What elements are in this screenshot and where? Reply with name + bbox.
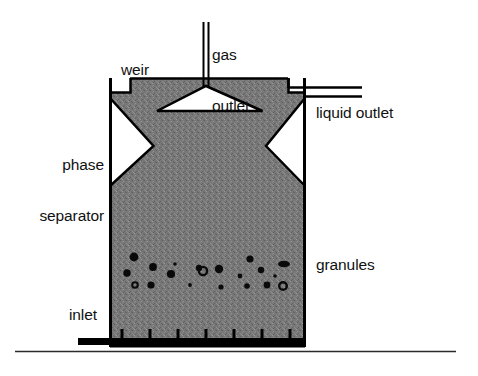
granule: [258, 267, 264, 273]
granule: [188, 283, 192, 287]
granule: [149, 263, 157, 271]
granule: [273, 274, 277, 278]
granule: [244, 283, 250, 289]
uasb-reactor-diagram: gas outlet weir liquid outlet phase sepa…: [0, 0, 478, 376]
label-inlet: inlet: [69, 306, 97, 323]
label-gas-outlet: gas outlet: [212, 12, 249, 148]
granule: [278, 261, 290, 267]
granule: [238, 274, 243, 279]
granule: [123, 269, 130, 276]
granule: [246, 255, 253, 262]
label-gas-outlet-line1: gas: [212, 46, 249, 63]
label-gas-outlet-line2: outlet: [212, 97, 249, 114]
label-phase-separator-line1: phase: [0, 156, 104, 173]
label-phase-separator: phase separator: [0, 122, 104, 258]
weir-notch-void: [110, 78, 130, 92]
sludge-bed: [110, 78, 305, 346]
granule: [215, 265, 223, 273]
label-granules: granules: [316, 256, 375, 273]
label-weir: weir: [121, 61, 149, 78]
liquid-outlet-notch-void: [288, 78, 305, 92]
granule: [264, 282, 271, 289]
granule: [147, 281, 154, 288]
vessel-floor: [110, 343, 305, 348]
granule: [167, 270, 175, 278]
label-phase-separator-line2: separator: [0, 207, 104, 224]
granule: [173, 262, 177, 266]
granule: [130, 253, 139, 262]
label-liquid-outlet: liquid outlet: [316, 104, 393, 121]
granule: [218, 284, 223, 289]
